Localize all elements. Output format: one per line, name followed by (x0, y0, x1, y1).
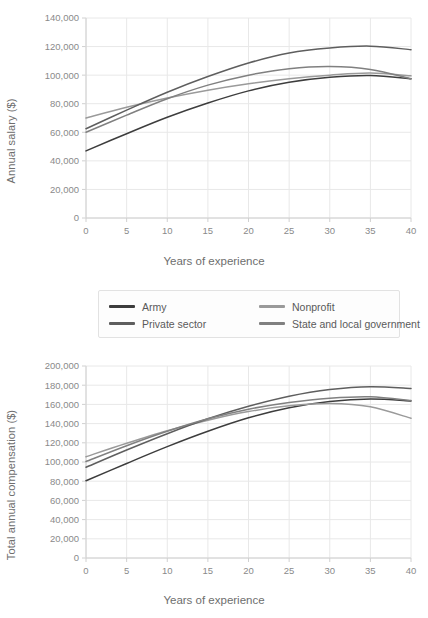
legend-swatch-private-sector (109, 322, 135, 324)
svg-text:20,000: 20,000 (50, 533, 79, 544)
legend-swatch-state-and-local-government (259, 322, 285, 324)
legend-label-army: Army (142, 301, 167, 313)
svg-text:160,000: 160,000 (45, 399, 79, 410)
y-axis-title-text: Annual salary ($) (5, 99, 17, 184)
y-axis-title-total-annual-compensation: Total annual compensation ($) (0, 352, 22, 618)
x-axis-title-text: Years of experience (163, 594, 264, 606)
y-axis-title-text: Total annual compensation ($) (5, 410, 17, 560)
svg-text:0: 0 (74, 552, 79, 563)
total-annual-compensation-chart: Total annual compensation ($) 020,00040,… (0, 352, 428, 618)
svg-text:35: 35 (365, 225, 376, 236)
legend-swatch-nonprofit (259, 305, 285, 307)
legend-item-army[interactable]: Army (109, 301, 259, 313)
svg-text:25: 25 (284, 565, 295, 576)
svg-text:15: 15 (203, 225, 214, 236)
svg-text:20: 20 (243, 225, 254, 236)
svg-text:40: 40 (406, 565, 417, 576)
chart-legend: Army Nonprofit Private sector State and … (98, 290, 400, 338)
svg-text:5: 5 (124, 225, 129, 236)
svg-text:5: 5 (124, 565, 129, 576)
svg-text:140,000: 140,000 (45, 12, 79, 23)
annual-salary-chart: Annual salary ($) 020,00040,00060,00080,… (0, 0, 428, 282)
svg-text:100,000: 100,000 (45, 456, 79, 467)
svg-text:100,000: 100,000 (45, 70, 79, 81)
svg-text:35: 35 (365, 565, 376, 576)
svg-text:60,000: 60,000 (50, 495, 79, 506)
legend-label-nonprofit: Nonprofit (292, 301, 335, 313)
legend-item-private-sector[interactable]: Private sector (109, 318, 259, 330)
legend-item-state-and-local-government[interactable]: State and local government (259, 318, 420, 330)
svg-text:30: 30 (324, 225, 335, 236)
svg-text:0: 0 (83, 565, 88, 576)
svg-text:15: 15 (203, 565, 214, 576)
annual-salary-plot-area: Annual salary ($) 020,00040,00060,00080,… (0, 0, 428, 282)
x-axis-title-annual-salary: Years of experience (0, 255, 428, 267)
svg-text:10: 10 (162, 565, 173, 576)
total-annual-compensation-svg: 020,00040,00060,00080,000100,000120,0001… (0, 352, 428, 590)
legend-item-nonprofit[interactable]: Nonprofit (259, 301, 420, 313)
svg-text:120,000: 120,000 (45, 41, 79, 52)
legend-swatch-army (109, 305, 135, 307)
svg-text:20: 20 (243, 565, 254, 576)
svg-text:10: 10 (162, 225, 173, 236)
annual-salary-svg: 020,00040,00060,00080,000100,000120,0001… (0, 0, 428, 250)
svg-text:40,000: 40,000 (50, 155, 79, 166)
svg-text:80,000: 80,000 (50, 98, 79, 109)
legend-label-private-sector: Private sector (142, 318, 206, 330)
svg-text:0: 0 (74, 212, 79, 223)
svg-text:60,000: 60,000 (50, 127, 79, 138)
x-axis-title-text: Years of experience (163, 255, 264, 267)
svg-text:40: 40 (406, 225, 417, 236)
total-annual-compensation-plot-area: Total annual compensation ($) 020,00040,… (0, 352, 428, 618)
svg-text:25: 25 (284, 225, 295, 236)
svg-text:0: 0 (83, 225, 88, 236)
legend-label-state-and-local-government: State and local government (292, 318, 420, 330)
svg-text:20,000: 20,000 (50, 184, 79, 195)
svg-text:80,000: 80,000 (50, 476, 79, 487)
y-axis-title-annual-salary: Annual salary ($) (0, 0, 22, 282)
svg-text:40,000: 40,000 (50, 514, 79, 525)
x-axis-title-total-annual-compensation: Years of experience (0, 594, 428, 606)
svg-text:30: 30 (324, 565, 335, 576)
svg-text:120,000: 120,000 (45, 437, 79, 448)
svg-text:200,000: 200,000 (45, 360, 79, 371)
svg-text:140,000: 140,000 (45, 418, 79, 429)
svg-text:180,000: 180,000 (45, 380, 79, 391)
